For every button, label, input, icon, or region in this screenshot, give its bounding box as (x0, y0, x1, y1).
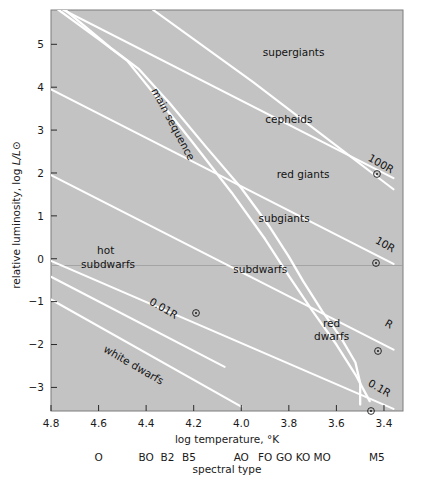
spectral-type-FO: FO (258, 451, 272, 463)
x-tick-label: 4.6 (90, 417, 107, 429)
y-tick-label: 4 (37, 81, 44, 93)
spectral-type-GO: GO (276, 451, 292, 463)
spectral-type-axis: OBOB2B5AOFOGOKOMOM5 (94, 451, 384, 463)
x-tick-label: 3.4 (376, 417, 393, 429)
hr-diagram-svg: 543210−1−2−3 4.84.64.44.24.03.83.63.4 OB… (0, 0, 424, 481)
spectral-type-B2: B2 (161, 451, 175, 463)
y-tick-label: 5 (37, 38, 44, 50)
label-supergiants: supergiants (263, 46, 325, 58)
x-axis-title: log temperature, °K (175, 433, 280, 445)
label-red-giants: red giants (277, 168, 330, 180)
label-subgiants: subgiants (259, 212, 310, 224)
label-subdwarfs: subdwarfs (233, 263, 287, 275)
label-subdwarfs: subdwarfs (81, 258, 135, 270)
x-tick-label: 4.4 (138, 417, 155, 429)
y-tick-label: 3 (37, 124, 44, 136)
y-tick-label: −2 (29, 338, 44, 350)
y-tick-label: −1 (29, 295, 44, 307)
x-tick-label: 3.8 (280, 417, 297, 429)
spectral-type-M5: M5 (369, 451, 385, 463)
y-tick-label: 0 (37, 253, 44, 265)
x-tick-label: 3.6 (328, 417, 345, 429)
label-red: red (323, 317, 340, 329)
y-axis-title-text: relative luminosity, log L/L⊙ (10, 141, 22, 289)
spectral-type-MO: MO (313, 451, 330, 463)
x-tick-label: 4.2 (185, 417, 202, 429)
label-hot: hot (97, 244, 114, 256)
label-dwarfs: dwarfs (314, 330, 349, 342)
spectral-type-B5: B5 (182, 451, 196, 463)
label-cepheids: cepheids (265, 113, 312, 125)
x-tick-label: 4.0 (233, 417, 250, 429)
y-axis-title: relative luminosity, log L/L⊙ (10, 141, 22, 289)
spectral-type-AO: AO (234, 451, 249, 463)
x-tick-label: 4.8 (43, 417, 60, 429)
y-tick-label: 1 (37, 210, 44, 222)
spectral-type-axis-title: spectral type (193, 463, 262, 475)
hr-diagram-figure: 543210−1−2−3 4.84.64.44.24.03.83.63.4 OB… (0, 0, 424, 481)
y-tick-label: 2 (37, 167, 44, 179)
spectral-type-O: O (94, 451, 102, 463)
spectral-type-KO: KO (296, 451, 311, 463)
spectral-type-BO: BO (138, 451, 153, 463)
y-tick-label: −3 (29, 381, 44, 393)
